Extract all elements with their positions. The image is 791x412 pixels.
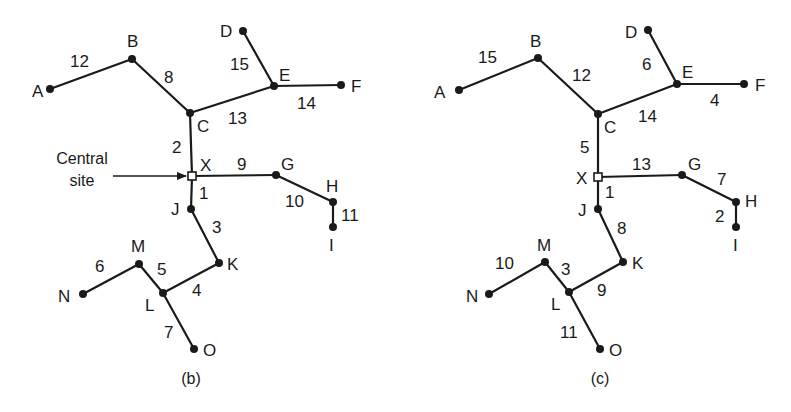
node-i [732,223,740,231]
node-j [594,205,602,213]
node-h [329,198,337,206]
node-n [79,290,87,298]
node-a [46,85,54,93]
diagram-caption: (c) [591,370,610,387]
node-label: B [127,32,138,51]
node-label: X [576,169,587,188]
node-label: N [466,287,478,306]
edge-weight-label: 9 [597,281,606,300]
node-label: D [220,22,232,41]
edge-k-l [569,262,623,292]
node-label: E [682,63,693,82]
node-label: A [32,82,44,101]
node-label: E [279,66,290,85]
node-label: O [609,341,622,360]
edge-weight-label: 15 [230,55,249,74]
edge-a-b [459,58,538,90]
node-label: D [625,23,637,42]
node-label: H [326,177,338,196]
node-b [534,54,542,62]
tree-diagram-c: 151214645137218931011ABCDEFXGHIJKLMNO(c) [434,23,765,387]
node-label: G [688,155,701,174]
central-site-label: Central [56,150,108,167]
node-label: A [434,83,446,102]
edge-b-c [132,59,190,113]
edge-weight-label: 9 [237,155,246,174]
edge-weight-label: 2 [715,207,724,226]
node-label: I [329,236,334,255]
node-f [740,80,748,88]
edge-weight-label: 15 [478,48,497,67]
node-d [644,26,652,34]
edge-weight-label: 12 [572,66,591,85]
node-label: M [537,236,551,255]
node-label: M [131,237,145,256]
node-k [619,258,627,266]
node-c [594,110,602,118]
node-o [190,345,198,353]
node-label: C [197,117,209,136]
edge-weight-label: 3 [212,218,221,237]
edge-weight-label: 7 [717,170,726,189]
edge-weight-label: 12 [70,52,89,71]
edge-weight-label: 1 [605,183,614,202]
edge-weight-label: 8 [617,219,626,238]
edge-g-h [682,175,736,202]
central-site-node [594,173,602,181]
diagram-canvas: 128131514291011134567ABCDEFXGHIJKLMNOCen… [0,0,791,412]
node-i [329,223,337,231]
edge-x-g [192,175,276,176]
node-label: J [171,200,180,219]
node-m [541,258,549,266]
node-k [215,259,223,267]
node-e [673,80,681,88]
node-label: B [530,32,541,51]
node-label: J [578,201,587,220]
node-label: F [755,76,765,95]
node-f [337,81,345,89]
edge-weight-label: 8 [164,68,173,87]
node-label: L [551,295,560,314]
node-a [455,86,463,94]
edge-weight-label: 14 [297,94,316,113]
central-site-label: site [70,172,95,189]
tree-diagram-b: 128131514291011134567ABCDEFXGHIJKLMNOCen… [32,22,361,387]
edge-weight-label: 11 [341,206,359,225]
edge-weight-label: 14 [638,107,657,126]
node-o [596,345,604,353]
edge-weight-label: 5 [580,138,589,157]
edge-weight-label: 5 [157,260,166,279]
edge-weight-label: 1 [199,184,208,203]
node-label: L [145,296,154,315]
edge-weight-label: 6 [642,55,651,74]
node-e [270,82,278,90]
node-label: F [351,77,361,96]
edge-weight-label: 11 [560,323,578,342]
node-m [135,260,143,268]
node-l [159,289,167,297]
node-c [186,109,194,117]
node-label: N [58,287,70,306]
edge-weight-label: 4 [710,91,719,110]
edge-weight-label: 7 [164,323,173,342]
node-l [565,288,573,296]
edge-e-f [274,85,341,86]
diagram-caption: (b) [181,370,201,387]
edge-weight-label: 13 [632,155,651,174]
edge-x-j [191,176,192,209]
node-j [187,205,195,213]
node-g [272,171,280,179]
edge-weight-label: 10 [495,254,514,273]
node-label: I [733,236,738,255]
edge-weight-label: 3 [561,260,570,279]
node-g [678,171,686,179]
edge-weight-label: 6 [95,257,104,276]
node-label: C [604,118,616,137]
node-label: H [745,192,757,211]
node-label: G [281,155,294,174]
edge-k-l [163,263,219,293]
edge-c-x [190,113,192,176]
edge-weight-label: 4 [192,281,201,300]
edge-x-g [598,175,682,177]
node-d [239,27,247,35]
